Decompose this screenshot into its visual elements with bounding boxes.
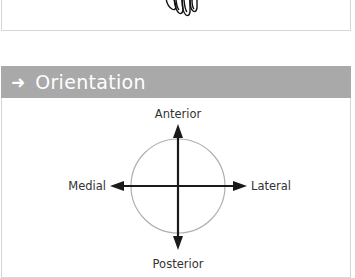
section-header-orientation: ➜ Orientation	[1, 66, 351, 98]
label-posterior: Posterior	[153, 257, 204, 271]
label-anterior: Anterior	[155, 107, 202, 121]
arrow-right-icon: ➜	[11, 74, 25, 91]
section-title: Orientation	[35, 71, 146, 93]
orientation-diagram-panel: Anterior Posterior Medial Lateral	[1, 98, 351, 278]
label-medial: Medial	[68, 179, 106, 193]
label-lateral: Lateral	[251, 179, 291, 193]
arrow-up-icon	[173, 124, 183, 138]
top-illustration-panel	[1, 0, 351, 31]
arrow-right-icon	[233, 181, 247, 191]
arrow-down-icon	[173, 236, 183, 250]
arrow-left-icon	[110, 181, 124, 191]
orientation-compass-diagram: Anterior Posterior Medial Lateral	[2, 98, 352, 278]
hand-illustration-icon	[162, 0, 204, 18]
